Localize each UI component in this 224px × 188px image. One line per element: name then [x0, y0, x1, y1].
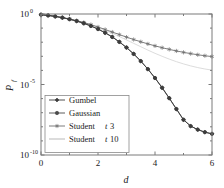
svg-text:10: 10 [20, 150, 30, 160]
legend-label: Student [69, 121, 96, 131]
x-axis-label: d [124, 174, 130, 185]
svg-text:10: 10 [20, 80, 30, 90]
x-tick-label: 6 [210, 158, 215, 168]
legend[interactable]: GumbelGaussianStudentt3Studentt10 [45, 95, 129, 153]
svg-text:-5: -5 [30, 78, 35, 84]
y-tick-label: 100 [20, 8, 33, 19]
y-tick-label: 10-10 [20, 149, 38, 160]
figure-canvas: 024610010-510-10 d P f GumbelGaussianStu… [0, 0, 224, 188]
legend-label: Student [69, 134, 96, 144]
y-axis-label-subscript: f [10, 79, 17, 82]
legend-label: Gumbel [69, 95, 97, 105]
svg-text:10: 10 [20, 9, 30, 19]
legend-label: Gaussian [69, 108, 101, 118]
legend-sample-marker [55, 111, 58, 114]
x-tick-label: 4 [153, 158, 158, 168]
x-tick-label: 0 [39, 158, 44, 168]
y-axis-label: P f [4, 79, 17, 92]
legend-label-suffix: 10 [110, 134, 119, 144]
y-axis-label-main: P [4, 85, 15, 92]
svg-text:-10: -10 [30, 149, 38, 155]
y-tick-label: 10-5 [20, 78, 35, 89]
x-tick-label: 2 [96, 158, 101, 168]
svg-text:0: 0 [30, 8, 33, 14]
legend-label-suffix: 3 [110, 121, 114, 131]
